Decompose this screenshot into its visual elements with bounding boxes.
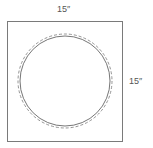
dashed-circle	[18, 34, 112, 128]
square-outline	[8, 22, 123, 142]
square-with-circle-diagram	[0, 0, 153, 148]
solid-circle	[20, 36, 110, 126]
